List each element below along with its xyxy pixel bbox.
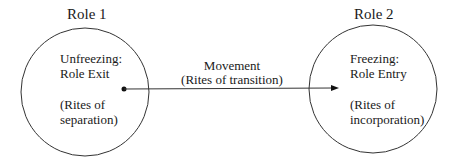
movement-label: Movement <box>204 58 261 73</box>
movement-rites-label: (Rites of transition) <box>181 72 283 87</box>
role2-label: Role Entry <box>350 66 407 81</box>
role-transition-diagram: Role 1 Unfreezing: Role Exit (Rites of s… <box>0 0 458 161</box>
role1-rites-line2: separation) <box>60 112 118 127</box>
role1-circle <box>21 28 149 156</box>
role1-title: Role 1 <box>67 6 107 22</box>
role2-stage: Freezing: <box>350 51 399 66</box>
role2-rites-line2: incorporation) <box>350 112 424 127</box>
role1-stage: Unfreezing: <box>60 51 122 66</box>
role2-title: Role 2 <box>354 6 394 22</box>
arrowhead-icon <box>331 85 339 91</box>
role2-rites-line1: (Rites of <box>350 97 396 112</box>
role1-label: Role Exit <box>60 66 110 81</box>
role2-circle <box>309 25 437 153</box>
role1-rites-line1: (Rites of <box>60 97 106 112</box>
movement-arrow-line <box>124 88 333 89</box>
